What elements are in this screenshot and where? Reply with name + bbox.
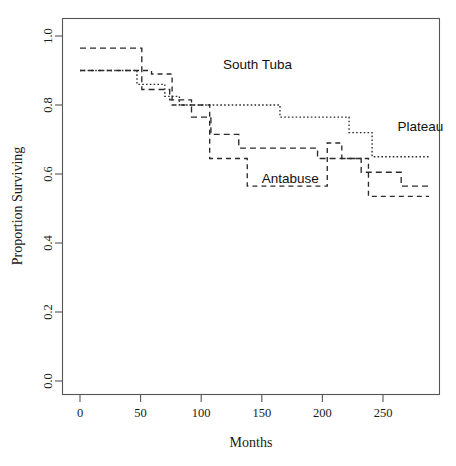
x-tick-label: 100 <box>192 406 211 420</box>
x-tick-label: 0 <box>77 406 83 420</box>
y-tick-label: 1.0 <box>41 28 55 44</box>
y-tick-label: 0.6 <box>41 166 55 182</box>
x-axis-title: Months <box>230 435 273 450</box>
y-tick-label: 0.0 <box>41 373 55 389</box>
x-tick-label: 250 <box>374 406 393 420</box>
annotation-south-tuba: South Tuba <box>223 57 293 72</box>
kaplan-meier-plot: 0.00.20.40.60.81.0 050100150200250 South… <box>0 0 456 466</box>
y-tick-label: 0.2 <box>41 304 55 320</box>
x-tick-label: 150 <box>252 406 271 420</box>
annotation-plateau: Plateau <box>398 119 444 134</box>
annotation-antabuse: Antabuse <box>262 171 319 186</box>
y-tick-label: 0.8 <box>41 97 55 113</box>
y-axis-title: Proportion Surviving <box>10 147 25 266</box>
survival-chart-figure: 0.00.20.40.60.81.0 050100150200250 South… <box>0 0 456 466</box>
x-tick-label: 50 <box>134 406 147 420</box>
y-tick-label: 0.4 <box>41 234 55 250</box>
x-tick-label: 200 <box>313 406 332 420</box>
